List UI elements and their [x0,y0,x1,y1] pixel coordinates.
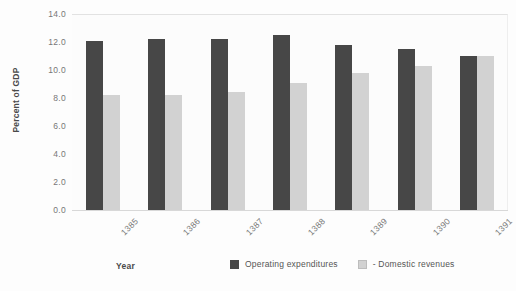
x-axis-ticks: 1385138613871388138913901391 [72,212,508,252]
bar-group [211,14,245,210]
bar-group [273,14,307,210]
bar-group [148,14,182,210]
bar [477,56,494,210]
bar [211,39,228,210]
bar [103,95,120,210]
y-axis-ticks: 14.012.010.08.06.04.02.00.0 [22,0,66,291]
y-tick-label: 14.0 [26,9,66,19]
bar-group [460,14,494,210]
x-tick-label: 1390 [430,216,451,237]
bar [86,41,103,210]
x-tick-label: 1388 [306,216,327,237]
bar-group [335,14,369,210]
y-tick-label: 2.0 [26,177,66,187]
bar [415,66,432,210]
x-tick-label: 1389 [368,216,389,237]
y-axis-title: Percent of GDP [11,25,21,175]
bar [398,49,415,210]
y-tick-label: 6.0 [26,121,66,131]
x-axis-line [72,210,508,211]
x-tick-label: 1391 [493,216,514,237]
bar-group [398,14,432,210]
bar-chart: Percent of GDP 14.012.010.08.06.04.02.00… [0,0,516,291]
bar [228,92,245,210]
bar [290,83,307,210]
bar [148,39,165,210]
y-tick-label: 12.0 [26,37,66,47]
bar [165,95,182,210]
legend-swatch-icon [358,260,367,269]
legend-label: - Domestic revenues [373,259,455,269]
y-tick-label: 8.0 [26,93,66,103]
chart-legend: Operating expenditures- Domestic revenue… [230,259,455,269]
x-tick-label: 1387 [244,216,265,237]
legend-label: Operating expenditures [245,259,338,269]
legend-entry[interactable]: - Domestic revenues [358,259,455,269]
bar [460,56,477,210]
bar-group [86,14,120,210]
y-tick-label: 10.0 [26,65,66,75]
bars-layer [72,14,508,210]
x-axis-title: Year [116,261,135,271]
bar [352,73,369,210]
y-tick-label: 0.0 [26,205,66,215]
legend-swatch-icon [230,260,239,269]
x-tick-label: 1385 [119,216,140,237]
y-tick-label: 4.0 [26,149,66,159]
bar [335,45,352,210]
bar [273,35,290,210]
legend-entry[interactable]: Operating expenditures [230,259,338,269]
x-tick-label: 1386 [181,216,202,237]
